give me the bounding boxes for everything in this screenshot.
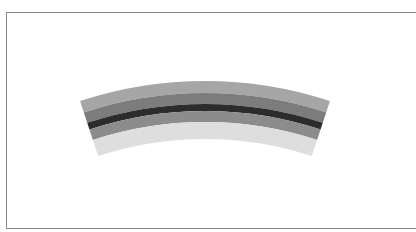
curved-band-arc	[0, 0, 403, 232]
